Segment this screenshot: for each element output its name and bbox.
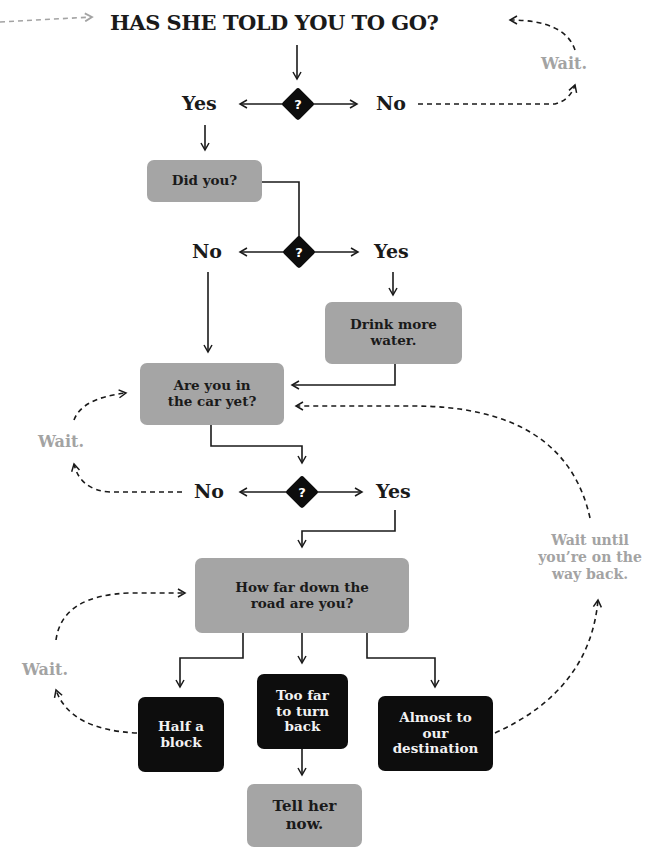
question-icon: ? — [281, 87, 315, 121]
decision-2-no: No — [192, 240, 222, 262]
decision-1-no: No — [376, 92, 406, 114]
almost-box: Almost to our destination — [378, 696, 493, 771]
decision-3-no: No — [194, 480, 224, 502]
too-far-box: Too far to turn back — [257, 674, 348, 749]
question-icon: ? — [282, 235, 316, 269]
wait-label-top: Wait. — [541, 54, 587, 73]
tell-her-box: Tell her now. — [247, 784, 362, 847]
did-you-box: Did you? — [147, 160, 262, 202]
wait-label-middle: Wait. — [38, 432, 84, 451]
question-icon: ? — [285, 475, 319, 509]
wait-label-way-back: Wait until you’re on the way back. — [530, 532, 650, 582]
drink-water-box: Drink more water. — [325, 302, 462, 364]
page-title: HAS SHE TOLD YOU TO GO? — [110, 10, 438, 35]
decision-2-yes: Yes — [374, 240, 409, 262]
wait-label-bottom: Wait. — [22, 660, 68, 679]
decision-3-yes: Yes — [376, 480, 411, 502]
in-car-box: Are you in the car yet? — [140, 363, 284, 425]
how-far-box: How far down the road are you? — [195, 558, 409, 633]
decision-1-yes: Yes — [182, 92, 217, 114]
half-block-box: Half a block — [138, 697, 224, 772]
